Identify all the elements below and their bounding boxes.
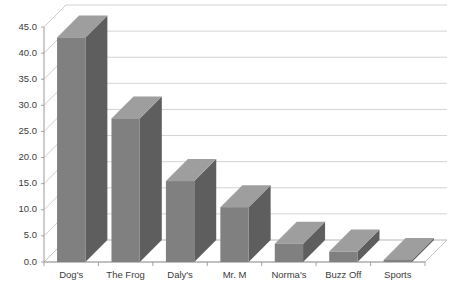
bar-front-face xyxy=(111,118,139,262)
x-tick-label-dog-s: Dog's xyxy=(59,269,83,280)
x-tick-label-buzz-off: Buzz Off xyxy=(325,269,362,280)
chart-canvas: 0.05.010.015.020.025.030.035.040.045.0 D… xyxy=(0,0,454,289)
bar-front-face xyxy=(329,252,357,262)
gridline-depth-45.0 xyxy=(44,5,66,27)
y-tick-label-15.0: 15.0 xyxy=(19,177,38,188)
y-tick-label-10.0: 10.0 xyxy=(19,203,38,214)
x-axis-tick-labels: Dog'sThe FrogDaly'sMr. MNorma'sBuzz OffS… xyxy=(59,269,412,280)
y-tick-label-0.0: 0.0 xyxy=(24,256,37,267)
y-tick-label-40.0: 40.0 xyxy=(19,47,38,58)
bar-side-face xyxy=(85,15,107,262)
x-tick-label-sports: Sports xyxy=(384,269,412,280)
y-axis-tick-labels: 0.05.010.015.020.025.030.035.040.045.0 xyxy=(19,21,38,267)
x-tick-label-daly-s: Daly's xyxy=(167,269,193,280)
y-tick-label-45.0: 45.0 xyxy=(19,21,38,32)
x-tick-label-norma-s: Norma's xyxy=(271,269,306,280)
bar-front-face xyxy=(275,244,303,262)
y-tick-label-25.0: 25.0 xyxy=(19,125,38,136)
bar-front-face xyxy=(220,207,248,262)
x-tick-label-mr-m: Mr. M xyxy=(223,269,247,280)
x-axis-tickmarks xyxy=(44,262,425,266)
y-tick-label-20.0: 20.0 xyxy=(19,151,38,162)
bar-front-face xyxy=(384,260,412,262)
y-tick-label-30.0: 30.0 xyxy=(19,99,38,110)
bar-daly-s xyxy=(166,159,216,262)
y-tick-label-35.0: 35.0 xyxy=(19,73,38,84)
y-tick-label-5.0: 5.0 xyxy=(24,229,37,240)
bar-side-face xyxy=(140,96,162,262)
x-tick-label-the-frog: The Frog xyxy=(106,269,145,280)
bar-chart: 0.05.010.015.020.025.030.035.040.045.0 D… xyxy=(0,0,454,289)
bar-front-face xyxy=(57,37,85,262)
bar-dog-s xyxy=(57,15,107,262)
bar-the-frog xyxy=(111,96,161,262)
bar-front-face xyxy=(166,181,194,262)
